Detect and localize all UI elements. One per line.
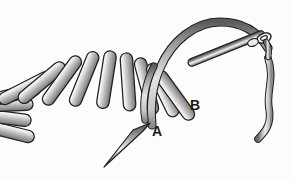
stitch-diagram-canvas: A B [0, 0, 293, 180]
stitch-illustration [0, 0, 293, 180]
label-b: B [190, 98, 200, 112]
label-a: A [152, 124, 162, 138]
